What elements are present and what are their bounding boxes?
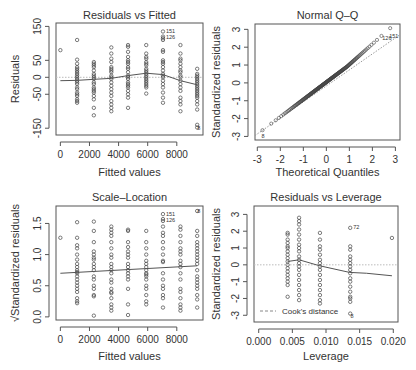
point-label: 8 [197,125,200,131]
panel-residuals-vs-leverage: Residuals vs Leverage0.0000.0050.0100.01… [210,191,406,362]
x-tick-label: 4000 [107,149,130,160]
plot-title: Scale–Location [92,191,167,203]
y-tick-label: 3 [230,211,241,217]
point-label: 126 [166,34,175,40]
point-label: 8 [261,133,264,139]
x-tick-label: 8000 [166,334,189,345]
point-label: 151 [166,211,175,217]
x-tick-label: 8000 [166,149,189,160]
y-tick-label: 150 [32,18,43,35]
reference-line [255,35,400,136]
x-tick-label: 0.020 [381,336,406,347]
y-tick-label: 0 [230,262,241,268]
x-tick-label: 0 [324,154,330,165]
x-tick-label: 0.005 [280,336,305,347]
y-tick-label: 0 [231,80,242,86]
data-points [261,27,392,132]
y-tick-label: 3 [231,26,242,32]
x-tick-label: -1 [299,154,308,165]
y-tick-label: 1.0 [32,247,43,261]
data-points [286,216,394,315]
x-tick-label: 6000 [137,334,160,345]
point-label: 8 [197,208,200,214]
x-tick-label: 6000 [137,149,160,160]
x-tick-label: 0.010 [313,336,338,347]
point-label: 72 [353,224,359,230]
smoother-line [60,266,197,273]
y-tick-label: -3 [230,310,241,319]
x-tick-label: 0 [58,149,64,160]
y-tick-label: -1 [231,96,242,105]
x-tick-label: 0.015 [347,336,372,347]
y-axis-label: Standardized residuals [210,208,222,320]
y-tick-label: -2 [231,114,242,123]
panel-residuals-vs-fitted: Residuals vs Fitted020004000600080001505… [9,9,203,178]
x-axis-label: Theoretical Quantiles [276,166,380,178]
y-axis-label: √Standardized residuals [9,204,21,322]
x-tick-label: -2 [276,154,285,165]
point-label: 126 [382,35,391,41]
x-tick-label: 2000 [78,149,101,160]
y-tick-label: 2 [231,44,242,50]
y-tick-label: 1.5 [32,216,43,230]
plot-title: Residuals vs Fitted [83,9,176,21]
y-tick-label: -3 [231,132,242,141]
x-tick-label: 0 [58,334,64,345]
data-points [59,209,199,317]
smoother-line [288,260,392,276]
x-tick-label: 0.000 [246,336,271,347]
regression-diagnostic-plots: Residuals vs Fitted020004000600080001505… [0,0,416,370]
x-axis-label: Fitted values [98,350,161,362]
y-tick-label: -150 [32,118,43,138]
y-tick-label: 50 [32,54,43,66]
y-tick-label: -1 [230,277,241,286]
y-tick-label: -2 [230,294,241,303]
x-tick-label: 4000 [107,334,130,345]
y-tick-label: 2 [230,228,241,234]
y-axis-label: Standardized residuals [210,26,222,138]
x-tick-label: -3 [253,154,262,165]
x-tick-label: 3 [393,154,399,165]
panel-normal-q-q: Normal Q–Q-3-2-101233210-1-2-3Theoretica… [210,9,400,178]
point-label: 8 [351,313,354,319]
plot-title: Residuals vs Leverage [270,191,381,203]
x-axis-label: Leverage [303,350,349,362]
panel-scale-location: Scale–Location020004000600080001.51.00.5… [9,191,203,362]
y-tick-label: 1 [231,62,242,68]
y-tick-label: 1 [230,245,241,251]
x-tick-label: 2000 [78,334,101,345]
y-axis-label: Residuals [9,54,21,103]
plot-title: Normal Q–Q [297,9,359,21]
legend-label: Cook's distance [282,307,339,316]
x-tick-label: 2 [370,154,376,165]
y-tick-label: 0.5 [32,278,43,292]
x-axis-label: Fitted values [98,166,161,178]
plot-frame [254,206,398,322]
x-tick-label: 1 [347,154,353,165]
y-tick-label: 0 [32,74,43,80]
y-tick-label: 0.0 [32,309,43,323]
y-tick-label: -50 [32,87,43,102]
point-label: 126 [166,217,175,223]
